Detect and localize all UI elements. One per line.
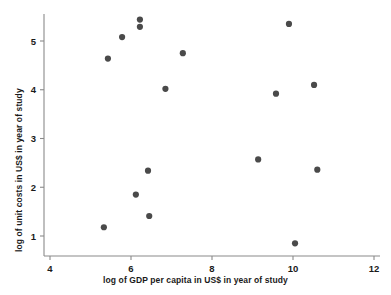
- scatter-point: [105, 55, 111, 61]
- x-tick-label: 8: [209, 263, 214, 274]
- scatter-point: [146, 213, 152, 219]
- scatter-point: [273, 91, 279, 97]
- x-tick-label: 4: [47, 263, 53, 274]
- x-tick-label: 10: [288, 263, 299, 274]
- y-tick-label: 5: [31, 36, 37, 47]
- scatter-point: [137, 24, 143, 30]
- x-tick-label: 12: [369, 263, 380, 274]
- x-tick-label: 6: [128, 263, 133, 274]
- scatter-point: [101, 224, 107, 230]
- y-tick-label: 2: [31, 182, 36, 193]
- y-tick-label: 3: [31, 133, 36, 144]
- y-axis-title: log of unit costs in US$ in year of stud…: [14, 12, 24, 252]
- scatter-point: [311, 82, 317, 88]
- scatter-point: [137, 16, 143, 22]
- scatter-point: [133, 191, 139, 197]
- axes: [44, 14, 380, 256]
- tick-marks: [40, 41, 374, 260]
- scatter-point: [292, 240, 298, 246]
- scatter-point: [286, 21, 292, 27]
- scatter-point: [162, 86, 168, 92]
- scatter-point: [314, 167, 320, 173]
- tick-labels: 123454681012: [31, 36, 380, 274]
- scatter-plot-figure: 123454681012 log of GDP per capita in US…: [0, 0, 391, 295]
- x-axis-title: log of GDP per capita in US$ in year of …: [0, 275, 391, 285]
- data-points: [101, 16, 321, 246]
- scatter-point: [119, 34, 125, 40]
- y-tick-label: 1: [31, 231, 37, 242]
- plot-canvas: 123454681012: [0, 0, 391, 295]
- scatter-point: [255, 156, 261, 162]
- y-tick-label: 4: [31, 84, 37, 95]
- scatter-point: [145, 168, 151, 174]
- scatter-point: [180, 50, 186, 56]
